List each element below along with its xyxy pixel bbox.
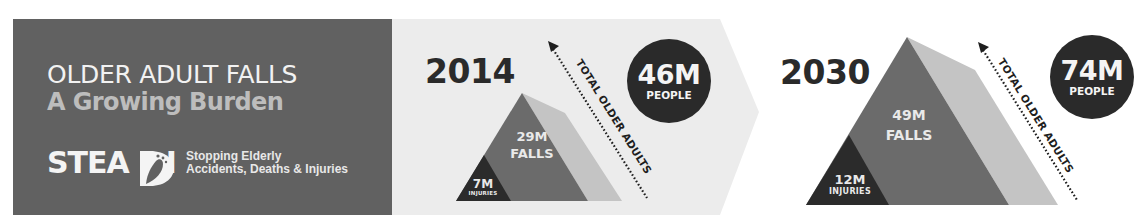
people-label-2030: PEOPLE xyxy=(1050,85,1134,97)
injuries-text-2030: INJURIES xyxy=(821,187,879,197)
falls-text-2014: FALLS xyxy=(497,145,567,162)
people-label-2014: PEOPLE xyxy=(627,89,711,101)
steadi-wordmark-prefix: STEA xyxy=(47,145,129,180)
injuries-label-2030: 12M INJURIES xyxy=(821,173,879,197)
falls-label-2014: 29M FALLS xyxy=(497,128,567,162)
falls-value-2030: 49M xyxy=(872,105,946,125)
page-subtitle: A Growing Burden xyxy=(47,88,283,116)
steadi-tagline-line2: Accidents, Deaths & Injuries xyxy=(186,163,348,176)
injuries-label-2014: 7M INJURIES xyxy=(461,178,505,197)
people-value-2014: 46M xyxy=(627,61,711,89)
page-title: OLDER ADULT FALLS xyxy=(47,61,297,89)
injuries-value-2030: 12M xyxy=(821,173,879,187)
falls-text-2030: FALLS xyxy=(872,125,946,145)
steadi-wordmark-suffix: I xyxy=(166,145,176,180)
injuries-text-2014: INJURIES xyxy=(461,190,505,197)
infographic: OLDER ADULT FALLS A Growing Burden STEAI… xyxy=(0,0,1145,224)
steadi-tagline: Stopping Elderly Accidents, Deaths & Inj… xyxy=(186,150,348,176)
people-value-2030: 74M xyxy=(1050,57,1134,85)
year-label-2014: 2014 xyxy=(425,54,515,90)
year-label-2030: 2030 xyxy=(780,55,870,91)
falls-label-2030: 49M FALLS xyxy=(872,105,946,145)
injuries-value-2014: 7M xyxy=(461,178,505,190)
title-panel xyxy=(13,19,392,215)
steadi-logo: STEAI xyxy=(47,145,176,181)
people-badge-2030: 74M PEOPLE xyxy=(1050,35,1134,119)
falls-value-2014: 29M xyxy=(497,128,567,145)
people-badge-2014: 46M PEOPLE xyxy=(627,39,711,123)
